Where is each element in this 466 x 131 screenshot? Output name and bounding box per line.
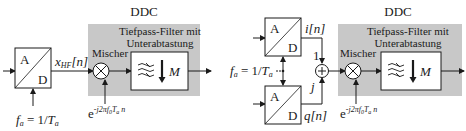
decimation-factor: M bbox=[419, 64, 432, 79]
xhf-label: xHF[n] bbox=[54, 54, 88, 70]
filter-title-line2: Unterabtastung bbox=[374, 37, 442, 49]
clock-label: fa = 1/Ta bbox=[16, 112, 59, 128]
q-weight: j bbox=[309, 79, 315, 94]
ddc-title: DDC bbox=[384, 4, 411, 19]
ddc-diagram: DDC Tiefpass-Filter mit Unterabtastung M… bbox=[0, 0, 466, 131]
adder-icon bbox=[316, 65, 329, 78]
i-weight: 1 bbox=[313, 48, 320, 63]
clock-junction bbox=[282, 70, 285, 73]
adc-box-q: A D bbox=[265, 86, 301, 124]
clock-label: fa = 1/Ta bbox=[230, 63, 273, 79]
lo-label: e-j2πf0Ta n bbox=[340, 105, 377, 121]
filter-title-line1: Tiefpass-Filter mit bbox=[367, 25, 449, 37]
ddc-title: DDC bbox=[130, 4, 157, 19]
adc-d-label: D bbox=[38, 72, 47, 87]
filter-title-line1: Tiefpass-Filter mit bbox=[119, 25, 201, 37]
adc-box-i: A D bbox=[265, 18, 301, 56]
adc-d-label: D bbox=[288, 108, 297, 123]
lo-label: e-j2πf0Ta n bbox=[88, 105, 125, 121]
adc-a-label: A bbox=[270, 21, 280, 36]
mixer-label: Mischer bbox=[340, 47, 376, 59]
right-diagram: DDC Tiefpass-Filter mit Unterabtastung M… bbox=[230, 4, 464, 124]
i-label: i[n] bbox=[305, 21, 325, 36]
mixer-icon bbox=[93, 63, 109, 79]
lowpass-decimation-filter: M bbox=[381, 52, 441, 90]
adc-d-label: D bbox=[288, 40, 297, 55]
mixer-label: Mischer bbox=[92, 47, 128, 59]
lowpass-decimation-filter: M bbox=[131, 52, 188, 90]
left-diagram: DDC Tiefpass-Filter mit Unterabtastung M… bbox=[3, 4, 211, 128]
adc-box: A D bbox=[15, 48, 51, 88]
decimation-factor: M bbox=[168, 64, 181, 79]
adc-a-label: A bbox=[20, 52, 30, 67]
adc-a-label: A bbox=[270, 89, 280, 104]
mixer-icon bbox=[345, 63, 361, 79]
q-label: q[n] bbox=[304, 108, 327, 123]
filter-title-line2: Unterabtastung bbox=[126, 37, 194, 49]
